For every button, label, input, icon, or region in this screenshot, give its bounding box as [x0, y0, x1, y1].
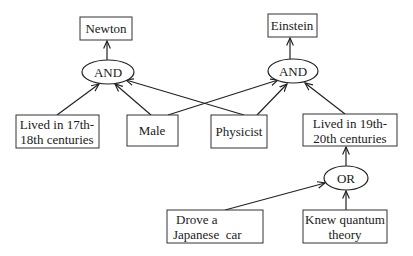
node-lived-19-20-line2: 20th centuries: [313, 131, 386, 146]
node-lived-17-18: Lived in 17th- 18th centuries: [16, 115, 99, 148]
node-einstein: Einstein: [268, 14, 317, 37]
edge-lived17-to-and-left: [57, 84, 99, 115]
node-or-label: OR: [337, 171, 355, 186]
node-newton: Newton: [80, 17, 132, 40]
node-male-label: Male: [139, 123, 166, 138]
node-and-right-label: AND: [279, 64, 307, 79]
node-knew-line1: Knew quantum: [305, 212, 385, 227]
node-or: OR: [324, 166, 368, 190]
edge-lived19-to-and-right: [305, 83, 345, 114]
node-and-left: AND: [82, 60, 134, 84]
node-lived-17-18-line1: Lived in 17th-: [20, 117, 94, 132]
node-lived-19-20-line1: Lived in 19th-: [313, 116, 387, 131]
node-lived-19-20: Lived in 19th- 20th centuries: [303, 114, 397, 146]
node-and-left-label: AND: [94, 65, 122, 80]
and-or-diagram: Newton Einstein AND AND Lived in 17th- 1…: [0, 0, 413, 256]
edge-male-to-and-left: [115, 84, 151, 115]
node-lived-17-18-line2: 18th centuries: [20, 132, 93, 147]
node-and-right: AND: [268, 59, 318, 83]
edge-drove-to-or: [225, 183, 325, 210]
node-drove-line2: Japanese car: [173, 227, 242, 242]
node-knew-quantum: Knew quantum theory: [303, 210, 387, 243]
node-drove-line1: Drove a: [176, 212, 218, 227]
node-physicist-label: Physicist: [216, 124, 263, 139]
node-knew-line2: theory: [328, 227, 362, 242]
edge-physicist-to-and-right: [257, 84, 287, 115]
node-newton-label: Newton: [85, 21, 127, 36]
node-male: Male: [127, 115, 178, 146]
node-physicist: Physicist: [211, 115, 267, 148]
node-drove-japanese-car: Drove a Japanese car: [167, 210, 263, 243]
node-einstein-label: Einstein: [271, 18, 314, 33]
